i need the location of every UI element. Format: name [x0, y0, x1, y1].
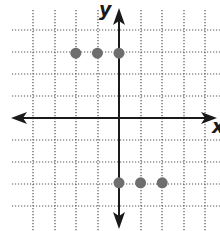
- data-point: [92, 48, 103, 59]
- data-point: [114, 48, 125, 59]
- data-point: [70, 48, 81, 59]
- axes: [11, 8, 217, 229]
- data-point: [135, 177, 146, 188]
- data-point: [114, 177, 125, 188]
- x-axis-label: x: [212, 115, 220, 137]
- y-axis-label: y: [99, 0, 111, 20]
- grid-lines: [12, 10, 220, 231]
- data-point: [157, 177, 168, 188]
- coordinate-plane: [0, 0, 220, 231]
